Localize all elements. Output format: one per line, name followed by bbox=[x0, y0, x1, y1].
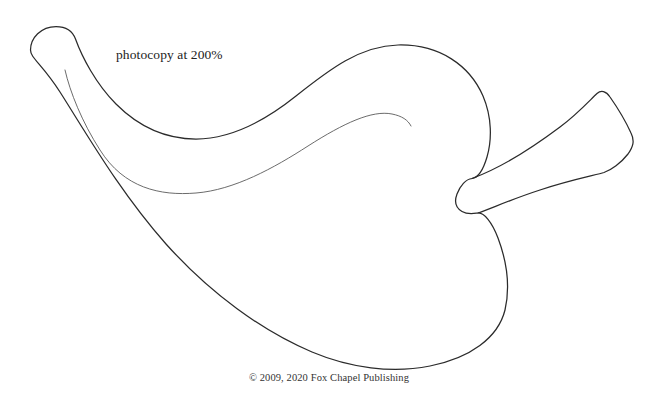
wing-inner-line-path bbox=[65, 70, 411, 194]
dove-pattern-drawing bbox=[0, 0, 658, 406]
pattern-page: photocopy at 200% © 2009, 2020 Fox Chape… bbox=[0, 0, 658, 406]
tail-outline-path bbox=[472, 91, 633, 213]
photocopy-instruction-label: photocopy at 200% bbox=[116, 47, 223, 63]
body-outline-path bbox=[31, 27, 508, 370]
copyright-notice: © 2009, 2020 Fox Chapel Publishing bbox=[0, 372, 658, 383]
